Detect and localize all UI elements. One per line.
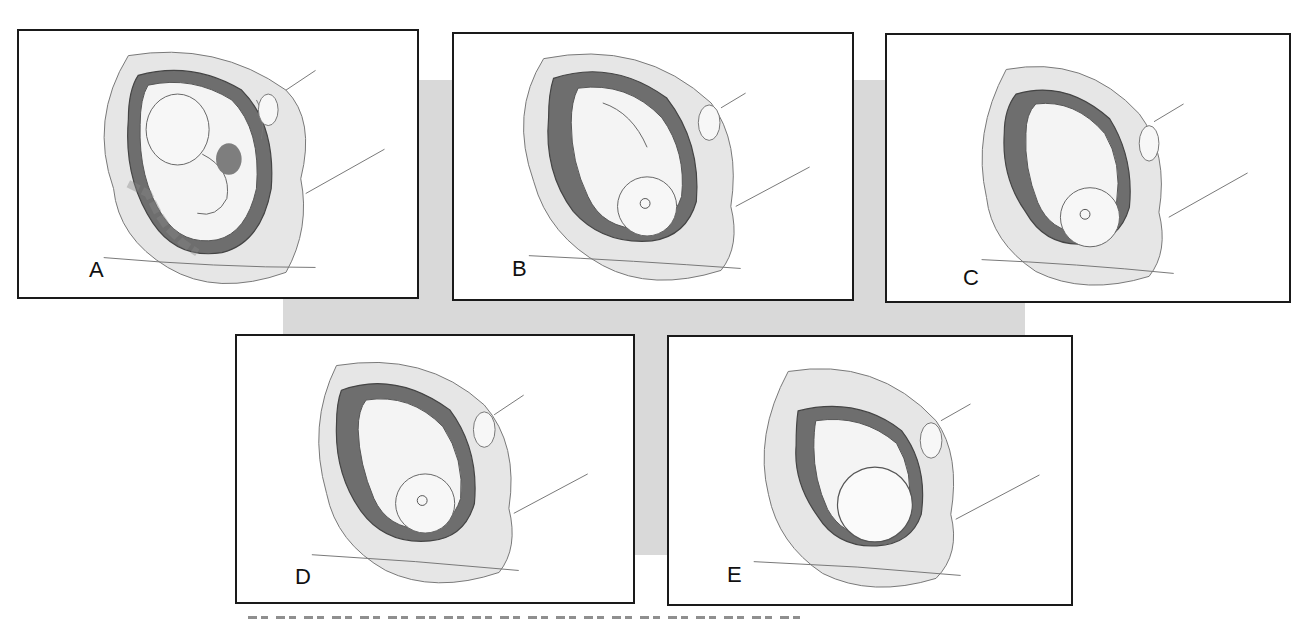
panel-label: D: [295, 564, 311, 590]
fetus-illustration-c: [887, 35, 1289, 301]
panel-label: E: [727, 562, 742, 588]
panel-b: B: [452, 32, 854, 301]
panel-label: B: [512, 256, 527, 282]
panel-a: A: [17, 29, 419, 299]
panel-d: D: [235, 334, 635, 604]
panel-label: C: [963, 265, 979, 291]
panel-label: A: [89, 257, 104, 283]
figure-caption-cropped: [248, 613, 808, 619]
panel-c: C: [885, 33, 1291, 303]
panel-e: E: [667, 335, 1073, 606]
fetus-illustration-d: [237, 336, 633, 602]
fetus-illustration-a: [19, 31, 417, 297]
